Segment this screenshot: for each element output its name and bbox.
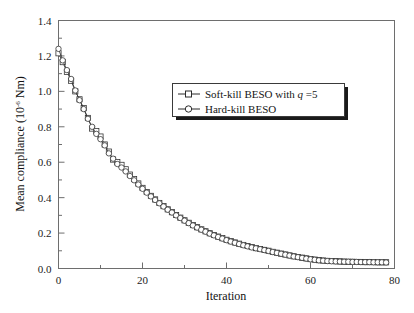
data-point-marker (56, 46, 61, 51)
circle-marker-icon (185, 106, 191, 112)
y-tick-label: 0.4 (38, 192, 52, 204)
square-marker-icon (186, 91, 192, 97)
data-point-marker (73, 88, 78, 93)
data-point-marker (77, 98, 82, 103)
y-tick-label: 1.2 (38, 50, 52, 62)
data-point-marker (383, 260, 388, 265)
x-tick-label: 40 (221, 274, 233, 286)
y-axis-title-suffix: Nm) (13, 76, 27, 101)
legend-label-soft-kill-prefix: Soft-kill BESO with (205, 88, 298, 100)
x-tick-label: 0 (56, 274, 62, 286)
y-tick-label: 0.6 (38, 156, 52, 168)
legend-label-soft-kill: Soft-kill BESO with q =5 (205, 88, 318, 100)
x-axis-title: Iteration (206, 289, 247, 303)
figure-container: 0204060800.00.20.40.60.81.01.21.4 Iterat… (0, 0, 414, 313)
data-point-marker (85, 116, 90, 121)
y-tick-label: 0.0 (38, 263, 52, 275)
data-point-marker (131, 178, 136, 183)
x-tick-label: 60 (305, 274, 317, 286)
y-tick-label: 0.8 (38, 121, 52, 133)
data-point-marker (60, 58, 65, 63)
y-axis-title-group: Mean compliance (10-6 Nm) (13, 76, 27, 211)
data-point-marker (81, 106, 86, 111)
y-tick-label: 0.2 (38, 227, 52, 239)
data-point-marker (89, 124, 94, 129)
data-point-marker (110, 156, 115, 161)
y-tick-label: 1.4 (38, 15, 52, 27)
data-point-marker (102, 143, 107, 148)
legend[interactable]: Soft-kill BESO with q =5 Hard-kill BESO (173, 84, 349, 121)
chart-background (0, 0, 414, 313)
data-point-marker (123, 169, 128, 174)
compliance-convergence-chart: 0204060800.00.20.40.60.81.01.21.4 Iterat… (0, 0, 414, 313)
x-tick-label: 20 (137, 274, 149, 286)
data-point-marker (64, 67, 69, 72)
x-tick-label: 80 (389, 274, 401, 286)
y-axis-title: Mean compliance (10-6 Nm) (13, 76, 27, 211)
data-point-marker (127, 173, 132, 178)
data-point-marker (106, 151, 111, 156)
legend-label-hard-kill: Hard-kill BESO (205, 103, 276, 115)
data-point-marker (94, 131, 99, 136)
data-point-marker (98, 136, 103, 141)
data-point-marker (68, 76, 73, 81)
data-point-marker (136, 182, 141, 187)
y-axis-title-prefix: Mean compliance (10 (13, 107, 27, 212)
y-tick-label: 1.0 (38, 85, 52, 97)
legend-label-soft-kill-suffix: =5 (303, 88, 318, 100)
